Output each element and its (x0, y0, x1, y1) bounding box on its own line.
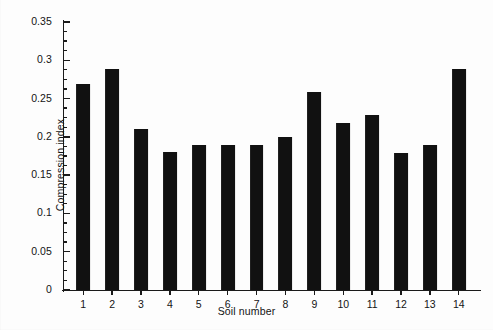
bar (221, 145, 235, 290)
x-tick-mark (198, 290, 199, 295)
x-tick-mark (400, 290, 401, 295)
y-tick-label: 0.05 (31, 244, 52, 259)
x-tick-mark (343, 290, 344, 295)
bar (336, 123, 350, 290)
bar (423, 145, 437, 290)
bar (192, 145, 206, 290)
bar (365, 115, 379, 290)
y-tick-mark (63, 88, 67, 89)
y-tick-mark (63, 251, 70, 252)
x-tick-mark (140, 290, 141, 295)
x-tick-mark (314, 290, 315, 295)
x-tick-mark (227, 290, 228, 295)
bar (279, 137, 293, 290)
y-tick-mark (63, 232, 67, 233)
y-tick-mark (63, 261, 67, 262)
y-tick-mark (63, 40, 67, 41)
chart-figure: 00.050.10.150.20.250.30.3512345678910111… (0, 0, 493, 330)
y-tick-label: 0.1 (37, 205, 52, 220)
y-tick-mark (63, 69, 67, 70)
y-tick-mark (63, 270, 67, 271)
x-tick-mark (458, 290, 459, 295)
y-axis-title: Compression index (54, 119, 66, 211)
y-tick-mark (63, 241, 67, 242)
y-tick-label: 0 (46, 282, 52, 297)
bar (134, 129, 148, 290)
bar (452, 69, 466, 290)
x-tick-mark (429, 290, 430, 295)
y-tick-mark (63, 31, 67, 32)
bar (76, 84, 90, 290)
y-tick-mark (63, 79, 67, 80)
x-axis-title: Soil number (0, 305, 493, 317)
y-tick-mark (63, 289, 70, 290)
y-tick-label: 0.35 (31, 14, 52, 29)
y-tick-mark (63, 107, 67, 108)
y-tick-mark (63, 213, 70, 214)
x-tick-mark (83, 290, 84, 295)
y-tick-mark (63, 222, 67, 223)
y-tick-label: 0.2 (37, 129, 52, 144)
x-tick-mark (256, 290, 257, 295)
y-tick-mark (63, 21, 70, 22)
bar (250, 145, 264, 290)
bar (163, 152, 177, 290)
bar (394, 153, 408, 290)
y-tick-label: 0.25 (31, 91, 52, 106)
y-tick-mark (63, 50, 67, 51)
plot-area: 00.050.10.150.20.250.30.3512345678910111… (63, 22, 479, 290)
x-tick-mark (371, 290, 372, 295)
y-tick-label: 0.15 (31, 167, 52, 182)
x-tick-mark (285, 290, 286, 295)
bar (105, 69, 119, 290)
x-tick-mark (169, 290, 170, 295)
y-tick-mark (63, 98, 70, 99)
bar (307, 92, 321, 290)
y-tick-mark (63, 60, 70, 61)
y-tick-label: 0.3 (37, 52, 52, 67)
x-tick-mark (111, 290, 112, 295)
y-tick-mark (63, 280, 67, 281)
